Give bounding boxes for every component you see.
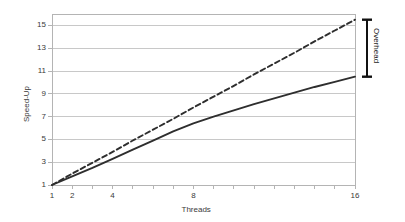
series-line-0 (52, 20, 355, 185)
x-axis-ticks (52, 185, 355, 189)
x-axis-title: Threads (182, 205, 211, 214)
data-series (52, 20, 355, 185)
y-tick-label: 15 (18, 20, 46, 29)
x-tick-label: 2 (60, 191, 84, 200)
x-tick-label: 4 (101, 191, 125, 200)
y-tick-label: 11 (18, 66, 46, 75)
y-tick-label: 1 (18, 180, 46, 189)
x-tick-label: 16 (343, 191, 367, 200)
series-line-1 (52, 77, 355, 185)
chart-canvas (0, 0, 405, 222)
y-axis-title: Speed-Up (22, 85, 31, 121)
overhead-annotation-label: Overhead (372, 28, 381, 63)
y-tick-label: 13 (18, 43, 46, 52)
y-tick-label: 3 (18, 157, 46, 166)
y-tick-label: 5 (18, 134, 46, 143)
overhead-bracket (362, 20, 372, 77)
speedup-chart: 13579111315 124816 Speed-Up Threads Over… (0, 0, 405, 222)
y-axis-ticks (48, 25, 52, 185)
x-tick-label: 8 (181, 191, 205, 200)
